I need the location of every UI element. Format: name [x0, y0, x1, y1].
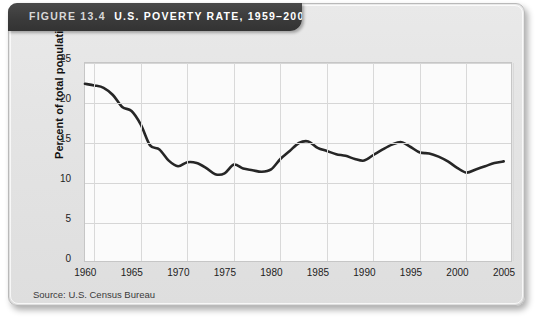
y-axis-tick-label: 5 — [35, 213, 71, 224]
gridline-horizontal — [85, 223, 511, 224]
gridline-vertical — [513, 63, 514, 261]
gridline-vertical — [466, 63, 467, 261]
x-axis-tick-label: 1985 — [295, 267, 341, 278]
gridline-vertical — [280, 63, 281, 261]
x-axis-tick-label: 1970 — [155, 267, 201, 278]
x-axis-tick-label: 2005 — [481, 267, 527, 278]
gridline-vertical — [234, 63, 235, 261]
gridline-horizontal — [85, 143, 511, 144]
gridline-vertical — [187, 63, 188, 261]
plot-area — [84, 62, 512, 262]
figure-screenshot: Percent of total population 0510152025 1… — [0, 0, 541, 335]
x-axis-tick-label: 1990 — [341, 267, 387, 278]
gridline-horizontal — [85, 183, 511, 184]
gridline-vertical — [373, 63, 374, 261]
gridline-vertical — [420, 63, 421, 261]
source-note: Source: U.S. Census Bureau — [33, 289, 155, 300]
x-axis-tick-label: 1980 — [248, 267, 294, 278]
y-axis-tick-label: 15 — [35, 133, 71, 144]
y-axis-tick-label: 0 — [35, 253, 71, 264]
gridline-vertical — [141, 63, 142, 261]
figure-title-bar: FIGURE 13.4 U.S. POVERTY RATE, 1959–2004 — [8, 3, 302, 31]
gridline-horizontal — [85, 63, 511, 64]
x-axis-tick-label: 2000 — [434, 267, 480, 278]
x-axis-tick-label: 1975 — [202, 267, 248, 278]
x-axis-tick-label: 1965 — [109, 267, 155, 278]
y-axis-tick-label: 10 — [35, 173, 71, 184]
figure-card: Percent of total population 0510152025 1… — [8, 3, 525, 306]
gridline-vertical — [327, 63, 328, 261]
y-axis-tick-label: 25 — [35, 53, 71, 64]
figure-title-label: U.S. POVERTY RATE, 1959–2004 — [114, 10, 302, 22]
figure-title: FIGURE 13.4 U.S. POVERTY RATE, 1959–2004 — [29, 10, 302, 22]
figure-number: FIGURE 13.4 — [29, 10, 106, 22]
x-axis-tick-label: 1960 — [62, 267, 108, 278]
poverty-rate-line — [85, 63, 513, 263]
y-axis-tick-label: 20 — [35, 93, 71, 104]
x-axis-tick-label: 1995 — [388, 267, 434, 278]
gridline-vertical — [94, 63, 95, 261]
gridline-horizontal — [85, 103, 511, 104]
series-path — [85, 84, 504, 175]
